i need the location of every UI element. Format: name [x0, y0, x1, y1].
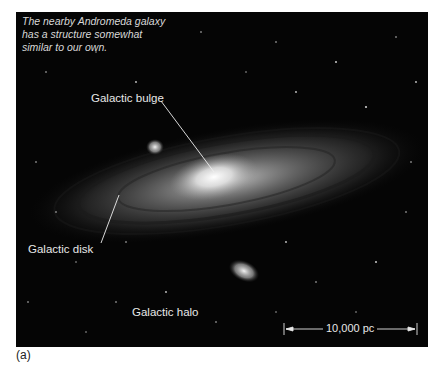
caption-line-2: has a structure somewhat — [22, 28, 192, 41]
scale-bar-label: 10,000 pc — [323, 322, 377, 334]
caption-line-1: The nearby Andromeda galaxy — [22, 15, 192, 28]
andromeda-galaxy-photo: The nearby Andromeda galaxy has a struct… — [16, 12, 428, 347]
caption-line-3: similar to our own. — [22, 41, 192, 54]
figure-caption: The nearby Andromeda galaxy has a struct… — [22, 15, 192, 54]
galaxy-illustration — [16, 12, 428, 347]
galactic-disk-label: Galactic disk — [28, 243, 93, 255]
panel-label: (a) — [16, 348, 31, 362]
galactic-bulge-label: Galactic bulge — [91, 92, 164, 104]
galactic-halo-label: Galactic halo — [132, 306, 198, 318]
